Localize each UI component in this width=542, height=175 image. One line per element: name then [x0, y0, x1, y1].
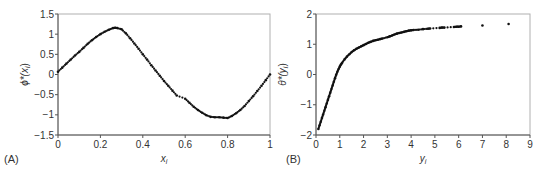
chart-a-x-tick-label: 1 — [267, 139, 273, 150]
figure: 00.20.40.60.81−1.5−1−0.500.511.5 ϕ*(xi) … — [0, 0, 542, 175]
chart-b-x-tick-label: 7 — [480, 139, 486, 150]
chart-a-x-label: xi — [160, 153, 168, 165]
chart-a-y-tick-label: 1 — [48, 29, 54, 40]
data-point-interp — [130, 39, 132, 41]
data-point-interp — [139, 49, 141, 51]
chart-b-y-tick-label: −2 — [301, 130, 313, 141]
data-point-interp — [435, 27, 437, 29]
data-point-interp — [450, 26, 452, 28]
data-point-interp — [160, 76, 162, 78]
chart-a-x-tick-label: 0.4 — [136, 139, 150, 150]
chart-a-points — [57, 26, 272, 119]
chart-a-y-tick-label: −1 — [43, 109, 55, 120]
chart-b-x-tick-label: 3 — [385, 139, 391, 150]
chart-b-y-tick-label: −1 — [301, 99, 313, 110]
data-point-interp — [147, 60, 149, 62]
chart-b-x-tick-label: 8 — [503, 139, 509, 150]
chart-b-x-tick-label: 1 — [337, 139, 343, 150]
chart-a-x-tick-label: 0.6 — [178, 139, 192, 150]
data-point-interp — [432, 27, 434, 29]
data-point — [481, 24, 484, 27]
chart-a-x-tick-label: 0.8 — [221, 139, 235, 150]
chart-b-x-tick-label: 2 — [361, 139, 367, 150]
chart-b-x-tick-label: 4 — [408, 139, 414, 150]
chart-a-y-tick-label: −0.5 — [34, 89, 54, 100]
chart-a-x-tick-label: 0 — [55, 139, 61, 150]
data-point — [507, 23, 510, 26]
data-point — [443, 26, 446, 29]
data-point-interp — [446, 26, 448, 28]
chart-b-x-tick-label: 0 — [313, 139, 319, 150]
chart-b-x-tick-label: 5 — [432, 139, 438, 150]
chart-a-y-tick-label: 0 — [48, 69, 54, 80]
chart-b-y-tick-label: 0 — [306, 69, 312, 80]
chart-b-y-label: θ*(yi) — [277, 63, 289, 86]
chart-a-x-tick-label: 0.2 — [93, 139, 107, 150]
data-point-interp — [266, 77, 268, 79]
data-point-interp — [135, 44, 137, 46]
data-point — [460, 25, 463, 28]
chart-b-x-label: yi — [419, 153, 427, 165]
data-point-interp — [178, 95, 180, 97]
data-point-interp — [181, 97, 183, 99]
data-point-interp — [262, 83, 264, 85]
data-point — [175, 94, 178, 97]
panel-label-b: (B) — [286, 153, 301, 165]
chart-b-y-tick-label: 1 — [306, 39, 312, 50]
data-point — [429, 27, 432, 30]
chart-a-y-tick-label: 1.5 — [40, 9, 54, 20]
chart-a: 00.20.40.60.81−1.5−1−0.500.511.5 ϕ*(xi) … — [4, 9, 273, 166]
chart-a-plot-frame — [58, 14, 270, 135]
chart-a-y-tick-label: 0.5 — [40, 49, 54, 60]
chart-b-x-tick-label: 6 — [456, 139, 462, 150]
data-point-interp — [253, 93, 255, 95]
chart-b-plot-frame — [316, 14, 530, 135]
chart-b: 0123456789−2−1012 θ*(yi) yi (B) — [277, 9, 533, 166]
data-point — [269, 73, 272, 76]
panel-label-a: (A) — [4, 153, 19, 165]
chart-b-points — [317, 23, 510, 131]
chart-b-y-tick-label: 2 — [306, 9, 312, 20]
data-point-interp — [258, 88, 260, 90]
data-point-interp — [143, 55, 145, 57]
chart-b-x-tick-label: 9 — [527, 139, 533, 150]
chart-a-ticks: 00.20.40.60.81−1.5−1−0.500.511.5 — [34, 9, 273, 151]
chart-a-y-tick-label: −1.5 — [34, 130, 54, 141]
data-point-interp — [156, 71, 158, 73]
chart-a-y-label: ϕ*(xi) — [19, 63, 31, 86]
data-point-interp — [152, 66, 154, 68]
